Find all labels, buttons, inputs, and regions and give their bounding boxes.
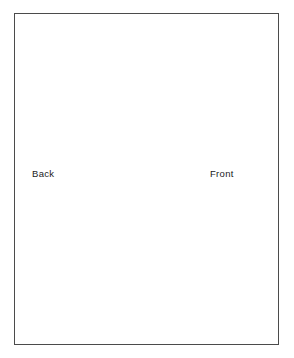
figure-frame — [14, 13, 279, 345]
figure-root: Back Front — [0, 0, 294, 358]
label-front: Front — [210, 168, 234, 179]
label-back: Back — [32, 168, 54, 179]
